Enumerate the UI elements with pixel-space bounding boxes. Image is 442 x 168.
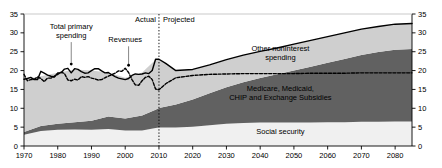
- y-axis-tick-label-right: 25: [418, 47, 426, 56]
- annotation-line: Total primary: [50, 22, 93, 31]
- annotation-line: Social security: [256, 127, 305, 136]
- annotation-social-security: Social security: [256, 127, 305, 136]
- x-axis-tick-label: 2040: [252, 151, 269, 160]
- x-axis-tick-label: 2020: [184, 151, 201, 160]
- y-axis-tick-label-left: 20: [10, 66, 18, 75]
- x-axis-tick-label: 1980: [49, 151, 66, 160]
- annotation-revenues: Revenues: [108, 35, 142, 44]
- annotation-total-primary-spending: Total primaryspending: [50, 22, 93, 40]
- y-axis-tick-label-left: 25: [10, 47, 18, 56]
- projected-label: Projected: [163, 15, 195, 24]
- y-axis-tick-label-right: 10: [418, 104, 426, 113]
- y-axis-tick-label-left: 5: [14, 123, 18, 132]
- annotation-line: Medicare, Medicaid,: [247, 84, 314, 93]
- x-axis-tick-label: 1990: [83, 151, 100, 160]
- leader-marker-total-primary-spending: [70, 63, 73, 66]
- x-axis-tick-label: 2080: [387, 151, 404, 160]
- y-axis-tick-label-right: 15: [418, 85, 426, 94]
- y-axis-tick-label-left: 0: [14, 142, 18, 151]
- annotation-line: CHIP and Exchange Subsidies: [229, 93, 332, 102]
- x-axis-tick-label: 2070: [353, 151, 370, 160]
- y-axis-tick-label-right: 35: [418, 10, 426, 19]
- annotation-line: spending: [265, 53, 295, 62]
- annotation-line: Other noninterest: [251, 44, 310, 53]
- y-axis-tick-label-left: 35: [10, 10, 18, 19]
- y-axis-tick-label-right: 20: [418, 66, 426, 75]
- y-axis-tick-label-left: 15: [10, 85, 18, 94]
- leader-marker-revenues: [127, 64, 130, 67]
- y-axis-tick-label-right: 0: [418, 142, 422, 151]
- annotation-line: spending: [56, 31, 86, 40]
- y-axis-tick-label-right: 5: [418, 123, 422, 132]
- x-axis-tick-label: 2030: [218, 151, 235, 160]
- chart-container: 0055101015152020252530303535197019801990…: [0, 0, 442, 168]
- x-axis-tick-label: 1970: [16, 151, 33, 160]
- x-axis-tick-label: 2010: [151, 151, 168, 160]
- y-axis-tick-label-left: 30: [10, 28, 18, 37]
- annotation-line: Revenues: [108, 35, 142, 44]
- x-axis-tick-label: 2050: [286, 151, 303, 160]
- x-axis-tick-label: 2060: [319, 151, 336, 160]
- budget-projection-chart: 0055101015152020252530303535197019801990…: [0, 0, 442, 168]
- actual-label: Actual: [135, 15, 156, 24]
- y-axis-tick-label-right: 30: [418, 28, 426, 37]
- x-axis-tick-label: 2000: [117, 151, 134, 160]
- y-axis-tick-label-left: 10: [10, 104, 18, 113]
